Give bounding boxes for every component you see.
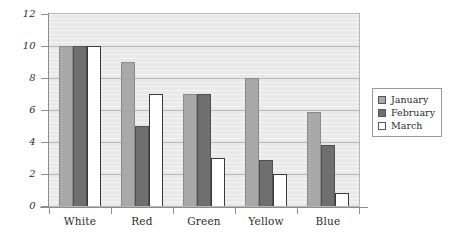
y-axis-line [48, 13, 49, 208]
bar [211, 158, 225, 206]
legend-item-label: February [391, 107, 435, 118]
bars-layer [49, 14, 359, 206]
bar-group [59, 14, 101, 206]
bar [149, 94, 163, 206]
bar-group [121, 14, 163, 206]
bar [307, 112, 321, 206]
x-axis-tick [297, 207, 298, 214]
bar-chart: 121086420 WhiteRedGreenYellowBlue Januar… [0, 0, 458, 240]
bar [121, 62, 135, 206]
bar [197, 94, 211, 206]
bar [321, 145, 335, 206]
x-axis-tick [173, 207, 174, 214]
y-axis-tick [41, 78, 48, 79]
y-axis-tick [41, 14, 48, 15]
x-axis-tick [235, 207, 236, 214]
legend: JanuaryFebruaryMarch [372, 88, 442, 137]
x-axis-tick-label: Blue [288, 215, 368, 227]
x-axis-line [40, 207, 368, 208]
legend-item[interactable]: January [378, 93, 435, 106]
bar [273, 174, 287, 206]
x-axis-tick [111, 207, 112, 214]
legend-swatch-icon [378, 122, 386, 130]
legend-swatch-icon [378, 96, 386, 104]
y-axis-tick [41, 46, 48, 47]
y-axis-tick-label: 2 [0, 168, 36, 179]
y-axis-tick-label: 6 [0, 104, 36, 115]
y-axis-tick-label: 10 [0, 40, 36, 51]
legend-item-label: March [391, 120, 422, 131]
legend-item-label: January [391, 94, 428, 105]
bar [183, 94, 197, 206]
bar [87, 46, 101, 206]
y-axis-tick-label: 8 [0, 72, 36, 83]
bar-group [245, 14, 287, 206]
bar [73, 46, 87, 206]
plot-area [48, 13, 360, 207]
y-axis-tick-label: 4 [0, 136, 36, 147]
bar-group [307, 14, 349, 206]
bar [335, 193, 349, 206]
bar [245, 78, 259, 206]
legend-item[interactable]: February [378, 106, 435, 119]
y-axis-tick-label: 0 [0, 200, 36, 211]
bar [259, 160, 273, 206]
bar [135, 126, 149, 206]
legend-swatch-icon [378, 109, 386, 117]
bar-group [183, 14, 225, 206]
bar [59, 46, 73, 206]
x-axis-tick [359, 207, 360, 214]
y-axis-tick [41, 110, 48, 111]
y-axis-tick [41, 206, 48, 207]
x-axis-tick [49, 207, 50, 214]
y-axis-tick [41, 174, 48, 175]
legend-item[interactable]: March [378, 119, 435, 132]
y-axis-tick [41, 142, 48, 143]
y-axis-tick-label: 12 [0, 8, 36, 19]
